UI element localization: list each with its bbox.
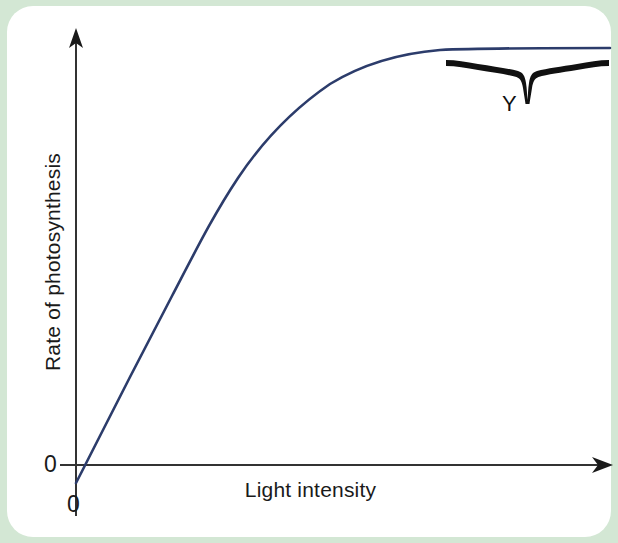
photosynthesis-rate-curve: [76, 48, 610, 483]
y-axis-title: Rate of photosynthesis: [41, 102, 65, 422]
brace-annotation-icon: [446, 60, 609, 104]
brace-annotation-label: Y: [502, 93, 517, 115]
x-axis-title: Light intensity: [0, 478, 618, 502]
chart-canvas: [0, 0, 618, 543]
figure-root: 0 0 Light intensity Rate of photosynthes…: [0, 0, 618, 543]
x-axis-title-text: Light intensity: [245, 478, 376, 502]
y-axis-zero-label: 0: [44, 453, 57, 476]
